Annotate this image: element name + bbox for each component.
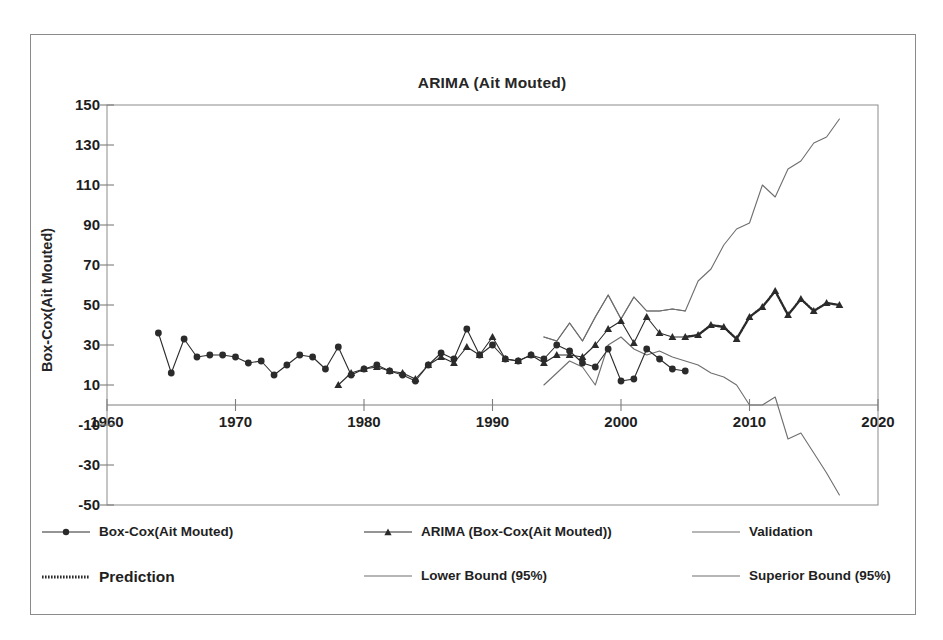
legend-item-label: Prediction xyxy=(99,568,175,586)
y-axis-tick-label: 90 xyxy=(46,217,100,232)
legend-swatch-line xyxy=(690,570,742,582)
x-axis-tick-label: 1980 xyxy=(347,413,380,430)
y-axis-tick-label: 70 xyxy=(46,257,100,272)
chart-title: ARIMA (Ait Mouted) xyxy=(107,74,877,92)
legend-item[interactable]: ARIMA (Box-Cox(Ait Mouted)) xyxy=(362,524,612,539)
x-axis-tick-label: 2020 xyxy=(861,413,894,430)
legend-item-label: ARIMA (Box-Cox(Ait Mouted)) xyxy=(421,524,612,539)
chart-figure: ARIMA (Ait Mouted) Box-Cox(Ait Mouted) -… xyxy=(0,0,943,640)
legend-item[interactable]: Lower Bound (95%) xyxy=(362,568,547,583)
legend-item[interactable]: Box-Cox(Ait Mouted) xyxy=(40,524,233,539)
x-axis-tick-label: 1970 xyxy=(219,413,252,430)
x-axis-tick-label: 1960 xyxy=(90,413,123,430)
x-axis-tick-label: 2000 xyxy=(604,413,637,430)
y-axis-tick-label: 50 xyxy=(46,297,100,312)
legend-swatch-line xyxy=(690,526,742,538)
legend-item-label: Superior Bound (95%) xyxy=(749,568,891,583)
x-axis-tick-label: 1990 xyxy=(476,413,509,430)
y-axis-tick-label: 30 xyxy=(46,337,100,352)
y-axis-tick-label: -50 xyxy=(46,497,100,512)
y-axis-tick-label: 130 xyxy=(46,137,100,152)
legend-swatch-line-marker xyxy=(40,526,92,538)
legend-item[interactable]: Superior Bound (95%) xyxy=(690,568,891,583)
legend-row-secondary: PredictionLower Bound (95%)Superior Boun… xyxy=(40,568,906,598)
legend-swatch-line-marker xyxy=(362,526,414,538)
legend-row-primary: Box-Cox(Ait Mouted)ARIMA (Box-Cox(Ait Mo… xyxy=(40,524,906,554)
y-axis-tick-label: 150 xyxy=(46,97,100,112)
legend-item-label: Box-Cox(Ait Mouted) xyxy=(99,524,233,539)
legend-item-label: Validation xyxy=(749,524,813,539)
y-axis-tick-label: -30 xyxy=(46,457,100,472)
y-axis-tick-label: 110 xyxy=(46,177,100,192)
legend-item[interactable]: Validation xyxy=(690,524,813,539)
y-axis-tick-label: 10 xyxy=(46,377,100,392)
x-axis-tick-label: 2010 xyxy=(733,413,766,430)
legend-swatch-dotted xyxy=(40,571,92,583)
legend-item-label: Lower Bound (95%) xyxy=(421,568,547,583)
legend-item[interactable]: Prediction xyxy=(40,568,175,586)
legend-swatch-line xyxy=(362,570,414,582)
chart-legend: Box-Cox(Ait Mouted)ARIMA (Box-Cox(Ait Mo… xyxy=(40,524,906,606)
